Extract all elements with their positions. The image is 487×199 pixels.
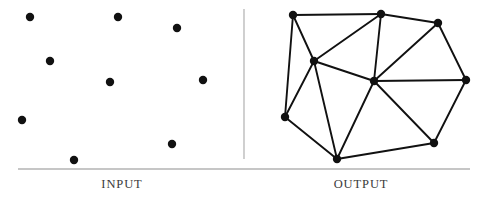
output-edge-q4-q2: [374, 23, 438, 81]
output-edge-q7-q8: [337, 143, 434, 159]
figure-canvas: [0, 0, 487, 199]
input-point-p6: [18, 116, 26, 124]
output-vertex-q1: [377, 10, 385, 18]
output-edge-q4-q5: [374, 80, 466, 81]
output-edge-q1-q4: [374, 14, 381, 81]
input-point-p0: [26, 13, 34, 21]
output-edge-q6-q0: [285, 15, 293, 117]
input-panel-caption: INPUT: [18, 178, 226, 191]
output-vertex-q4: [370, 77, 378, 85]
output-edges-layer: [285, 14, 466, 159]
input-point-p7: [168, 140, 176, 148]
input-points-layer: [18, 13, 207, 164]
input-point-p5: [199, 76, 207, 84]
output-edge-q4-q8: [337, 81, 374, 159]
figure-container: INPUT OUTPUT: [0, 0, 487, 199]
output-vertex-q3: [310, 57, 318, 65]
output-vertex-q2: [434, 19, 442, 27]
output-edge-q1-q2: [381, 14, 438, 23]
output-edge-q4-q3: [314, 61, 374, 81]
output-edge-q5-q7: [434, 80, 466, 143]
output-edge-q2-q5: [438, 23, 466, 80]
output-vertex-q0: [289, 11, 297, 19]
output-edge-q0-q1: [293, 14, 381, 15]
output-panel-caption: OUTPUT: [252, 178, 470, 191]
output-edge-q3-q1: [314, 14, 381, 61]
output-vertex-q5: [462, 76, 470, 84]
input-point-p4: [106, 78, 114, 86]
output-edge-q4-q7: [374, 81, 434, 143]
output-vertex-q7: [430, 139, 438, 147]
input-point-p2: [173, 24, 181, 32]
output-edge-q0-q3: [293, 15, 314, 61]
input-point-p8: [70, 156, 78, 164]
output-vertex-q8: [333, 155, 341, 163]
output-vertex-q6: [281, 113, 289, 121]
input-point-p3: [46, 57, 54, 65]
input-point-p1: [114, 13, 122, 21]
